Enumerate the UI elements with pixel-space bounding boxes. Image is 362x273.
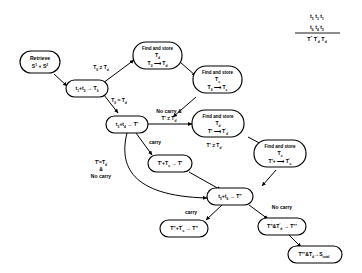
edge-label-carry-1: carry bbox=[149, 139, 161, 145]
node-t3t4[interactable]: t3+t4 → T' bbox=[106, 116, 148, 133]
diagram-canvas: Retrieve S1 + S2 t1+t2 → T0 Find and sto… bbox=[0, 0, 362, 273]
edge-t5t6-to-t2prime-td bbox=[249, 205, 268, 219]
edge-find-tc1-to-t5t6 bbox=[262, 170, 276, 186]
edge-t5t6-to-t2prime-tc bbox=[206, 205, 222, 220]
edge-retrieve-to-t1t2 bbox=[54, 74, 67, 86]
node-find-td-1-line1: Find and store bbox=[202, 114, 233, 119]
formula-result: T" T'd Td bbox=[307, 36, 326, 44]
node-find-tc-1-line1: Find and store bbox=[264, 144, 295, 149]
node-t2prime-tc[interactable]: T"+T'c → T" bbox=[160, 220, 208, 237]
node-find-tc-0[interactable]: Find and store Tc T0 ⟶ Tc bbox=[193, 66, 242, 93]
node-find-tc-1[interactable]: Find and store Tc T'+ ⟶ T'c bbox=[254, 140, 306, 167]
node-find-td-1[interactable]: Find and store Td T' ⟶ T'd bbox=[192, 110, 244, 137]
edge-label-td-eq: T0 = Td bbox=[111, 97, 127, 104]
edge-tprime-tc-to-t5t6 bbox=[189, 172, 221, 190]
node-retrieve-line2: S1 + S2 bbox=[32, 62, 48, 68]
edge-label-nocarry-neq-line1: No carry & bbox=[156, 108, 182, 114]
edge-label-nocarry-2: No carry bbox=[272, 204, 293, 210]
node-find-tc-0-line1: Find and store bbox=[202, 70, 233, 75]
formula-block: t5 t3 t1 t6 t4 t2 T" T'd Td bbox=[295, 13, 340, 43]
edge-t2prime-td-to-final bbox=[289, 235, 301, 247]
edge-label-tprime-neq-td: T' ≠ Td bbox=[207, 142, 222, 149]
node-retrieve-line1: Retrieve bbox=[30, 55, 50, 61]
edge-label-carry-2: carry bbox=[185, 209, 197, 215]
node-t2prime-td[interactable]: T"&T'd → T"' bbox=[258, 218, 306, 235]
node-t1t2[interactable]: t1+t2 → T0 bbox=[66, 80, 108, 97]
edge-label-nocarry-neq-line2: T' ≠ Td bbox=[162, 115, 177, 122]
node-find-td-0-line1: Find and store bbox=[142, 46, 173, 51]
node-find-tc-1-line3: T'+ ⟶ T'c bbox=[269, 158, 292, 166]
edge-t1t2-to-find-td0 bbox=[103, 60, 134, 83]
formula-row1: t5 t3 t1 bbox=[310, 13, 324, 20]
node-tprime-tc[interactable]: T'+Tc → T' bbox=[148, 155, 192, 172]
flowchart-svg: Retrieve S1 + S2 t1+t2 → T0 Find and sto… bbox=[0, 0, 362, 273]
node-final[interactable]: T"'&Td→Stotal bbox=[288, 246, 342, 263]
node-t5t6[interactable]: t5+t6 → T" bbox=[207, 188, 253, 205]
node-find-td-0[interactable]: Find and store Td T0 ⟶ Td bbox=[133, 42, 182, 69]
edge-label-tprime-eq-nocarry-line3: No carry bbox=[91, 173, 112, 179]
node-retrieve[interactable]: Retrieve S1 + S2 bbox=[20, 51, 60, 73]
edge-label-tprime-eq-nocarry-line2: & bbox=[99, 166, 103, 172]
node-find-td-1-line3: T' ⟶ T'd bbox=[208, 128, 228, 136]
edge-label-td-neq: T0 ≠ Td bbox=[93, 64, 109, 71]
formula-row2: t6 t4 t2 bbox=[310, 24, 324, 31]
edge-labels-group: T0 ≠ Td T0 = Td No carry & T' ≠ Td carry… bbox=[91, 64, 293, 215]
